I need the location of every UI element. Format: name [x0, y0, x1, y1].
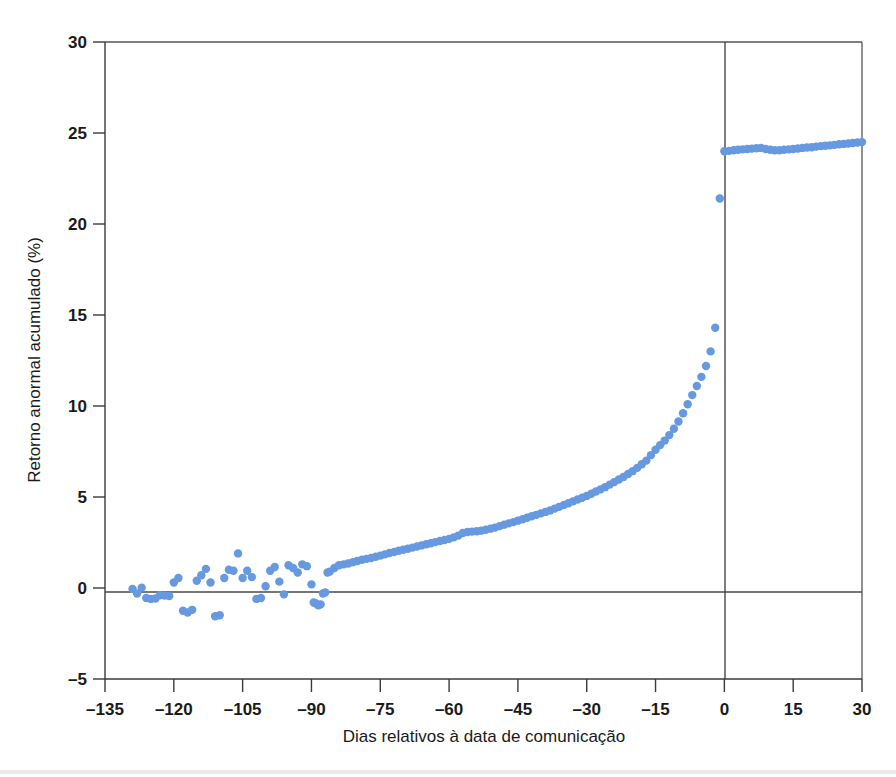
data-point	[271, 563, 279, 571]
data-point	[706, 347, 714, 355]
scan-edge-artifact	[0, 770, 896, 774]
data-point	[321, 588, 329, 596]
x-tick-label: –30	[573, 700, 601, 719]
data-point	[293, 568, 301, 576]
data-point	[697, 373, 705, 381]
chart-figure: –5051015202530 –135–120–105–90–75–60–45–…	[0, 0, 896, 777]
data-point	[280, 590, 288, 598]
x-tick-label: 15	[784, 700, 803, 719]
x-tick-label: –60	[435, 700, 463, 719]
x-tick-label: –105	[224, 700, 262, 719]
y-tick-label: 20	[68, 215, 87, 234]
data-point	[316, 600, 324, 608]
y-axis-title: Retorno anormal acumulado (%)	[25, 237, 44, 483]
x-tick-label: –15	[641, 700, 669, 719]
chart-background	[0, 0, 896, 777]
data-point	[138, 583, 146, 591]
data-point	[248, 573, 256, 581]
data-point	[216, 611, 224, 619]
y-tick-label: 5	[78, 488, 87, 507]
data-point	[693, 382, 701, 390]
data-point	[275, 577, 283, 585]
x-tick-label: –120	[155, 700, 193, 719]
data-point	[716, 194, 724, 202]
x-tick-label: 0	[720, 700, 729, 719]
x-axis-title: Dias relativos à data de comunicação	[343, 727, 626, 746]
data-point	[238, 574, 246, 582]
y-tick-label: 0	[78, 579, 87, 598]
data-point	[674, 417, 682, 425]
data-point	[165, 592, 173, 600]
data-point	[257, 594, 265, 602]
y-tick-label: 15	[68, 306, 87, 325]
data-point	[202, 565, 210, 573]
data-point	[307, 580, 315, 588]
data-point	[261, 582, 269, 590]
data-point	[229, 567, 237, 575]
data-point	[303, 562, 311, 570]
y-tick-label: 10	[68, 397, 87, 416]
data-point	[188, 606, 196, 614]
data-point	[683, 400, 691, 408]
cumulative-abnormal-return-scatter-chart: –5051015202530 –135–120–105–90–75–60–45–…	[0, 0, 896, 777]
x-tick-label: 30	[853, 700, 872, 719]
data-point	[711, 324, 719, 332]
x-tick-label: –90	[297, 700, 325, 719]
data-point	[234, 549, 242, 557]
y-tick-label: 25	[68, 124, 87, 143]
data-point	[858, 138, 866, 146]
data-point	[206, 578, 214, 586]
data-point	[174, 574, 182, 582]
x-tick-label: –75	[366, 700, 394, 719]
x-tick-label: –135	[86, 700, 124, 719]
data-point	[688, 391, 696, 399]
data-point	[702, 362, 710, 370]
data-point	[679, 409, 687, 417]
x-tick-label: –45	[504, 700, 532, 719]
data-point	[670, 425, 678, 433]
y-tick-label: –5	[68, 670, 87, 689]
data-point	[220, 574, 228, 582]
y-tick-label: 30	[68, 33, 87, 52]
